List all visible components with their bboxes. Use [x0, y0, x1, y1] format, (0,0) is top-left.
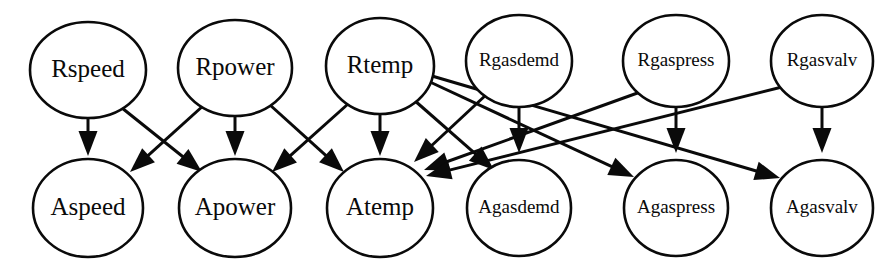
node-label: Agaspress	[637, 196, 715, 217]
arrow-head-icon	[79, 131, 98, 156]
node-label: Rspeed	[51, 55, 125, 82]
node-label: Rgaspress	[637, 49, 714, 70]
node-agasvalv[interactable]: Agasvalv	[771, 160, 873, 256]
edge-rspeed-to-aspeed	[79, 118, 98, 156]
node-label: Rgasdemd	[479, 49, 560, 70]
node-label: Rpower	[195, 53, 275, 80]
node-label: Rgasvalv	[787, 49, 858, 70]
node-rgasdemd[interactable]: Rgasdemd	[466, 15, 572, 107]
node-rgasvalv[interactable]: Rgasvalv	[771, 15, 873, 107]
node-apower[interactable]: Apower	[179, 159, 291, 257]
node-rgaspress[interactable]: Rgaspress	[623, 15, 729, 107]
node-agasdemd[interactable]: Agasdemd	[467, 160, 571, 256]
arrow-head-icon	[371, 131, 390, 156]
arrow-head-icon	[753, 162, 780, 180]
node-label: Agasvalv	[786, 196, 858, 217]
node-label: Atemp	[346, 193, 414, 220]
edge-rpower-to-apower	[226, 116, 245, 156]
node-label: Aspeed	[51, 193, 126, 220]
edge-rtemp-to-atemp	[371, 114, 390, 156]
edge-rgasdemd-to-agasdemd	[510, 107, 529, 153]
node-atemp[interactable]: Atemp	[327, 159, 433, 257]
arrow-head-icon	[226, 131, 245, 156]
node-label: Rtemp	[347, 51, 414, 78]
node-rtemp[interactable]: Rtemp	[326, 18, 434, 114]
diagram-canvas: RspeedRpowerRtempRgasdemdRgaspressRgasva…	[0, 0, 896, 265]
edge-rgasvalv-to-agasvalv	[813, 107, 832, 153]
arrow-head-icon	[177, 149, 202, 172]
graph-svg: RspeedRpowerRtempRgasdemdRgaspressRgasva…	[0, 0, 896, 265]
node-rpower[interactable]: Rpower	[178, 20, 292, 116]
node-agaspress[interactable]: Agaspress	[624, 160, 728, 256]
node-label: Agasdemd	[478, 196, 560, 217]
arrow-head-icon	[813, 128, 832, 153]
node-aspeed[interactable]: Aspeed	[33, 159, 143, 257]
node-label: Apower	[195, 193, 276, 220]
arrow-head-icon	[607, 158, 634, 177]
node-rspeed[interactable]: Rspeed	[30, 22, 146, 118]
